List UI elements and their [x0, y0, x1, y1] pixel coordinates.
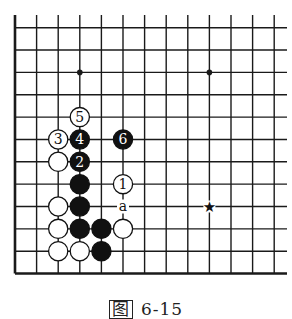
- black-stone: [92, 242, 111, 261]
- caption-number: 6-15: [141, 299, 183, 319]
- white-stone: 5: [70, 108, 89, 127]
- go-board: ★ 534621 a: [0, 0, 292, 292]
- move-number: 2: [75, 154, 84, 170]
- black-stone-icon: [70, 175, 89, 194]
- point-labels: a: [117, 198, 129, 214]
- black-stone: [70, 219, 89, 238]
- black-stone: [70, 197, 89, 216]
- move-number: 3: [54, 131, 63, 147]
- white-stone-icon: [49, 152, 68, 171]
- black-stone: 4: [70, 130, 89, 149]
- black-stone: [92, 219, 111, 238]
- move-number: 6: [119, 131, 128, 147]
- star-point-icon: [207, 70, 213, 76]
- white-stone: [49, 152, 68, 171]
- white-stone: 1: [113, 175, 132, 194]
- black-stone: [70, 175, 89, 194]
- black-stone: 2: [70, 152, 89, 171]
- white-stone: [70, 242, 89, 261]
- black-stone-icon: [92, 219, 111, 238]
- white-stone-icon: [70, 242, 89, 261]
- white-stone: [49, 197, 68, 216]
- white-stone: [49, 242, 68, 261]
- star-point-icon: [77, 70, 83, 76]
- white-stone-icon: [49, 219, 68, 238]
- white-stone: 3: [49, 130, 68, 149]
- black-stone: 6: [113, 130, 132, 149]
- figure-caption: 图6-15: [0, 299, 292, 319]
- star-marker-icon: ★: [203, 198, 216, 216]
- point-label-a: a: [119, 198, 127, 214]
- black-stone-icon: [70, 219, 89, 238]
- white-stone: [113, 219, 132, 238]
- star-points: ★: [77, 70, 216, 216]
- move-number: 5: [75, 109, 84, 125]
- caption-prefix: 图: [109, 300, 133, 319]
- white-stone: [49, 219, 68, 238]
- move-number: 1: [119, 176, 128, 192]
- white-stone-icon: [49, 197, 68, 216]
- black-stone-icon: [92, 242, 111, 261]
- white-stone-icon: [113, 219, 132, 238]
- white-stone-icon: [49, 242, 68, 261]
- move-number: 4: [75, 131, 84, 147]
- black-stone-icon: [70, 197, 89, 216]
